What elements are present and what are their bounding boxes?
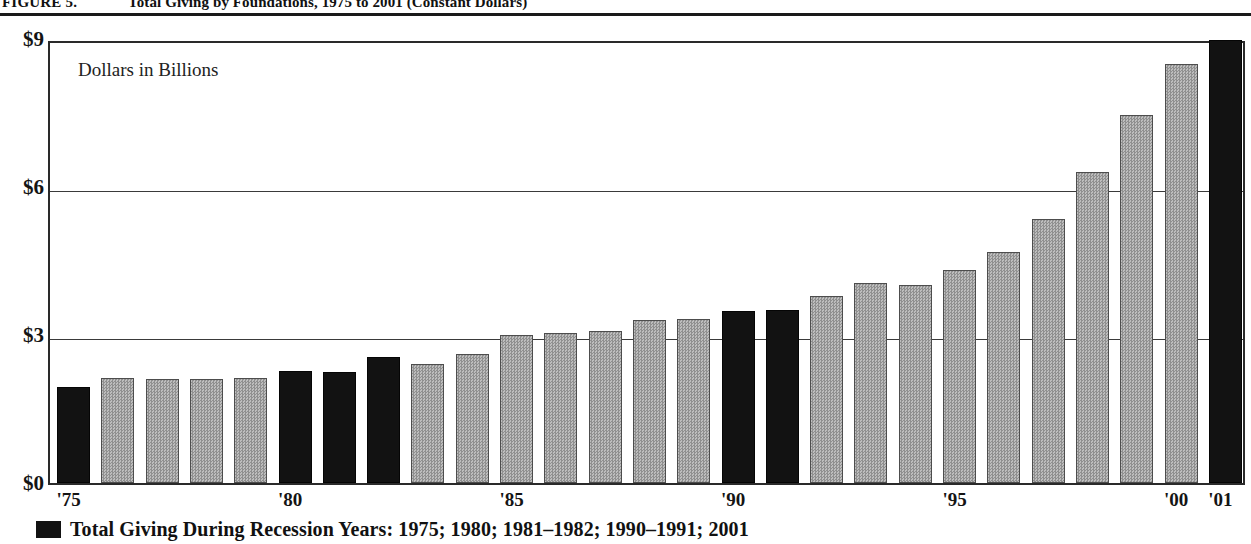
bar-1992 [810,296,843,483]
bar-1990 [722,311,755,483]
plot-annotation: Dollars in Billions [78,59,218,81]
bar-1999 [1120,115,1153,483]
x-tick-label-1980: '80 [278,489,302,511]
y-tick-label: $6 [0,177,44,198]
legend-label: Total Giving During Recession Years: 197… [70,518,749,541]
bar-1979 [234,378,267,483]
figure-title: Total Giving by Foundations, 1975 to 200… [128,0,527,11]
bar-1985 [500,335,533,483]
bar-1975 [57,387,90,483]
legend: Total Giving During Recession Years: 197… [36,518,749,541]
legend-swatch-recession [36,521,61,538]
x-tick-label-2000: '00 [1164,489,1188,511]
bar-1980 [279,371,312,483]
y-tick-label: $0 [0,473,44,494]
bar-1976 [101,378,134,483]
bar-1977 [146,379,179,483]
bar-1986 [544,333,577,483]
bar-1991 [766,310,799,483]
figure-header: FIGURE 5. Total Giving by Foundations, 1… [0,0,1251,14]
x-tick-label-1975: '75 [57,489,81,511]
bar-1981 [323,372,356,483]
bar-2000 [1165,64,1198,483]
gridline-6 [50,191,1243,192]
bar-1996 [987,252,1020,483]
bar-1984 [456,354,489,483]
figure-page: FIGURE 5. Total Giving by Foundations, 1… [0,0,1251,544]
bar-1978 [190,379,223,483]
bar-1995 [943,270,976,483]
x-tick-label-1990: '90 [721,489,745,511]
bar-1982 [367,357,400,483]
header-divider [0,13,1251,16]
bar-1989 [677,319,710,483]
plot-area: Dollars in Billions [48,41,1245,485]
y-tick-label: $9 [0,29,44,50]
x-tick-label-1985: '85 [500,489,524,511]
x-tick-label-1995: '95 [943,489,967,511]
x-tick-label-2001: '01 [1208,489,1232,511]
bar-1994 [899,285,932,483]
figure-number: FIGURE 5. [2,0,77,11]
bar-2001 [1209,40,1242,483]
y-tick-label: $3 [0,325,44,346]
bar-1983 [411,364,444,483]
bar-1997 [1032,219,1065,483]
bar-1998 [1076,172,1109,483]
bar-1988 [633,320,666,483]
bar-1987 [589,331,622,483]
bar-1993 [854,283,887,483]
